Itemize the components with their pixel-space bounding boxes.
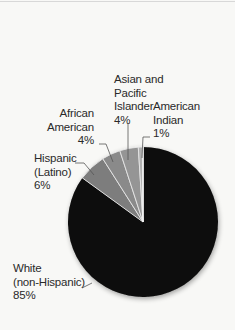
- label-text: (Latino): [34, 166, 77, 180]
- label-text: Hispanic: [34, 152, 77, 166]
- label-percent: 85%: [13, 289, 85, 303]
- label-percent: 1%: [153, 127, 200, 141]
- label-text: Indian: [153, 114, 200, 128]
- label-text: Pacific: [114, 87, 163, 101]
- pie-slices: [68, 147, 218, 297]
- label-text: (non-Hispanic): [13, 276, 85, 290]
- label-text: American: [47, 121, 94, 135]
- label-african-american: African American 4%: [47, 107, 94, 148]
- label-american-indian: American Indian 1%: [153, 100, 200, 141]
- label-hispanic-latino: Hispanic (Latino) 6%: [34, 152, 77, 193]
- label-percent: 6%: [34, 179, 77, 193]
- label-percent: 4%: [47, 134, 94, 148]
- label-text: American: [153, 100, 200, 114]
- label-text: Asian and: [114, 73, 163, 87]
- label-text: White: [13, 262, 85, 276]
- label-white-non-hispanic: White (non-Hispanic) 85%: [13, 262, 85, 303]
- label-text: African: [47, 107, 94, 121]
